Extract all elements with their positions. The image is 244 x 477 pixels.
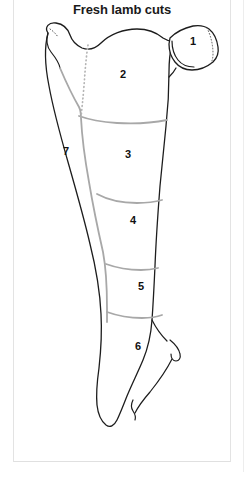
carcass-body-outline (45, 23, 172, 427)
cut-label-5: 5 (138, 280, 144, 292)
hock-hook-detail (170, 340, 180, 361)
cut-label-6: 6 (135, 340, 141, 352)
cut-label-7: 7 (63, 145, 69, 157)
cut-label-2: 2 (120, 68, 126, 80)
cut-label-4: 4 (130, 214, 137, 226)
lamb-carcass-cuts-diagram: 1 2 3 4 5 6 7 (0, 0, 244, 477)
cut-1-connector (169, 68, 176, 77)
page-root: Fresh lamb cuts 1 2 (0, 0, 244, 477)
shank-inner-line (152, 320, 167, 341)
shank-knuckle-detail (132, 400, 136, 420)
cut-label-3: 3 (125, 148, 131, 160)
cut-label-1: 1 (190, 35, 196, 47)
